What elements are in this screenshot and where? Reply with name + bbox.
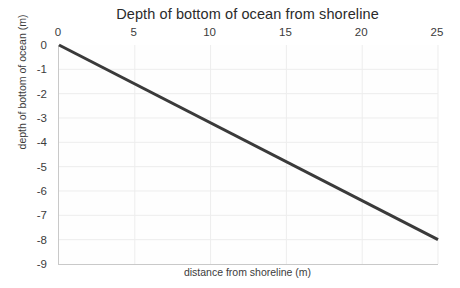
x-tick-label: 15 bbox=[279, 26, 292, 38]
y-tick-label: -1 bbox=[37, 63, 47, 75]
data-series-layer bbox=[59, 45, 438, 264]
x-tick-label: 20 bbox=[355, 26, 368, 38]
y-axis-title: depth of bottom of ocean (m) bbox=[16, 0, 28, 182]
chart-title: Depth of bottom of ocean from shoreline bbox=[58, 6, 437, 22]
y-tick-label: -6 bbox=[37, 185, 47, 197]
x-tick-label: 10 bbox=[203, 26, 216, 38]
y-tick-label: -3 bbox=[37, 112, 47, 124]
y-tick-label: -8 bbox=[37, 234, 47, 246]
y-tick-label: -5 bbox=[37, 161, 47, 173]
y-tick-label: -2 bbox=[37, 88, 47, 100]
x-axis-top-ticks: 0510152025 bbox=[0, 26, 460, 42]
chart-figure: Depth of bottom of ocean from shoreline … bbox=[0, 0, 460, 288]
data-line bbox=[59, 45, 438, 240]
plot-area bbox=[58, 45, 438, 265]
y-tick-label: 0 bbox=[41, 39, 47, 51]
x-tick-label: 5 bbox=[131, 26, 137, 38]
y-tick-label: -7 bbox=[37, 209, 47, 221]
x-tick-label: 25 bbox=[431, 26, 444, 38]
y-tick-label: -4 bbox=[37, 136, 47, 148]
y-tick-label: -9 bbox=[37, 258, 47, 270]
x-axis-title: distance from shoreline (m) bbox=[58, 266, 437, 278]
x-tick-label: 0 bbox=[55, 26, 61, 38]
